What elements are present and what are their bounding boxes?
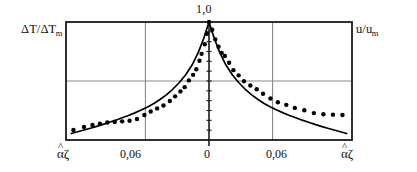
data-point	[194, 67, 198, 71]
data-point	[168, 99, 172, 103]
data-point	[231, 68, 235, 72]
data-point	[248, 83, 252, 87]
data-point	[149, 109, 153, 113]
data-point	[216, 45, 220, 49]
data-point	[236, 73, 240, 77]
data-point	[207, 20, 211, 24]
data-point	[210, 27, 214, 31]
center-vertical-axis	[206, 22, 211, 146]
data-point	[120, 119, 124, 123]
data-point	[82, 125, 86, 129]
data-point	[161, 103, 165, 107]
data-point	[293, 106, 297, 110]
data-point	[302, 108, 306, 112]
data-point	[187, 78, 191, 82]
data-point	[261, 92, 265, 96]
data-point	[331, 112, 335, 116]
data-point	[276, 100, 280, 104]
data-point	[71, 128, 75, 132]
data-point	[284, 103, 288, 107]
data-point	[340, 113, 344, 117]
data-point	[113, 120, 117, 124]
data-point	[127, 119, 131, 123]
data-point	[203, 42, 207, 46]
data-point	[155, 106, 159, 110]
data-point	[98, 122, 102, 126]
data-point	[135, 117, 139, 121]
data-point	[199, 52, 203, 56]
data-point	[223, 54, 227, 58]
data-point	[321, 112, 325, 116]
experimental-points	[71, 20, 344, 132]
data-point	[191, 73, 195, 77]
data-point	[227, 61, 231, 65]
data-point	[178, 89, 182, 93]
data-point	[197, 59, 201, 63]
data-point	[182, 85, 186, 89]
data-point	[90, 123, 94, 127]
data-point	[312, 111, 316, 115]
data-point	[173, 94, 177, 98]
data-point	[205, 32, 209, 36]
data-point	[105, 120, 109, 124]
data-point	[142, 113, 146, 117]
plot-area	[0, 0, 417, 172]
data-point	[242, 79, 246, 83]
data-point	[213, 37, 217, 41]
data-point	[254, 87, 258, 91]
data-point	[220, 51, 224, 55]
data-point	[268, 96, 272, 100]
chart-figure: ΔT/ΔTm u/um 1,0 ^αζ 0,06 0 0,06 ^αζ	[0, 0, 417, 172]
